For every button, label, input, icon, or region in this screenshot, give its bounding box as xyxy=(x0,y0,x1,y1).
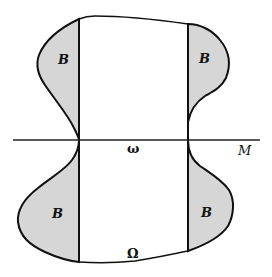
diagram-canvas: B B B B ω Ω M xyxy=(0,0,272,277)
label-m: M xyxy=(237,143,252,158)
region-b-lower-left xyxy=(18,140,79,262)
region-b-upper-right xyxy=(188,24,229,140)
label-omega-small: ω xyxy=(127,141,139,156)
region-b-upper-left xyxy=(37,19,79,140)
region-b-lower-right xyxy=(188,140,233,251)
label-b-lower-left: B xyxy=(51,206,63,221)
label-b-upper-left: B xyxy=(57,52,69,67)
label-b-lower-right: B xyxy=(200,205,212,220)
label-b-upper-right: B xyxy=(198,51,210,66)
omega-top-boundary xyxy=(79,16,188,24)
label-omega-large: Ω xyxy=(127,246,139,261)
